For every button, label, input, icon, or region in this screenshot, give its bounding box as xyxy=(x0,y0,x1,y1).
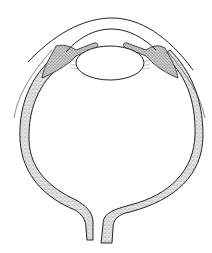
lens xyxy=(76,46,144,80)
sclera-left xyxy=(20,52,93,240)
eye-cross-section-diagram xyxy=(0,0,212,253)
eye-drawing xyxy=(0,0,212,253)
